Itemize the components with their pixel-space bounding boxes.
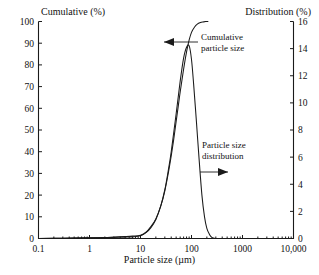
y2-tick-label: 2	[298, 207, 303, 217]
annotation-distribution-line2: distribution	[202, 151, 244, 161]
y-tick-label: 90	[25, 39, 35, 49]
y2-tick-label: 12	[298, 71, 308, 81]
y-tick-label: 0	[29, 234, 34, 244]
particle-size-chart-figure: Cumulative (%) Distribution (%) 01020304…	[0, 0, 319, 275]
axes-group	[39, 22, 294, 239]
x-tick-label: 1000	[233, 244, 252, 254]
y2-tick-label: 14	[298, 44, 308, 54]
data-curves-group	[39, 21, 294, 238]
y2-tick-label: 10	[298, 98, 308, 108]
x-tick-label: 1	[87, 244, 92, 254]
y-tick-label: 80	[25, 60, 35, 70]
x-tick-label: 10	[136, 244, 146, 254]
y2-tick-label: 0	[298, 234, 303, 244]
y-tick-label: 20	[25, 191, 35, 201]
annotation-particle-size-distribution: Particle size distribution	[200, 140, 246, 176]
annotation-cumulative-particle-size: Cumulative particle size	[164, 32, 244, 53]
y-tick-label: 60	[25, 104, 35, 114]
y-tick-label: 30	[25, 169, 35, 179]
y2-tick-label: 8	[298, 125, 303, 135]
y-tick-label: 100	[20, 17, 35, 27]
y2-tick-label: 16	[298, 17, 308, 27]
x-tick-label: 0.1	[33, 244, 45, 254]
annotation-cumulative-line2: particle size	[201, 43, 244, 53]
y-tick-label: 70	[25, 82, 35, 92]
annotation-distribution-line1: Particle size	[202, 140, 246, 150]
y2-tick-label: 4	[298, 180, 303, 190]
x-tick-label: 10,000	[280, 244, 306, 254]
plot-area: 010203040506070809010002468101214160.111…	[0, 0, 319, 275]
series-curve	[39, 21, 208, 238]
tick-labels-group: 010203040506070809010002468101214160.111…	[20, 17, 308, 254]
ticks-group	[39, 22, 294, 239]
series-curve	[39, 45, 294, 239]
y-tick-label: 50	[25, 125, 35, 135]
y-tick-label: 40	[25, 147, 35, 157]
x-tick-label: 100	[184, 244, 199, 254]
y-tick-label: 10	[25, 212, 35, 222]
annotation-cumulative-line1: Cumulative	[201, 32, 243, 42]
y2-tick-label: 6	[298, 153, 303, 163]
x-axis-title: Particle size (µm)	[0, 254, 319, 266]
